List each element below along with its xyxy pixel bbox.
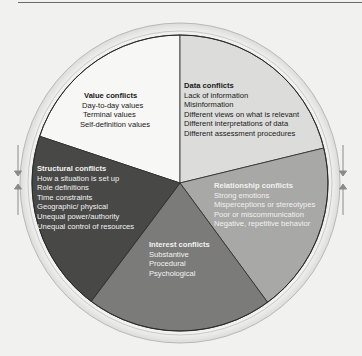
relationship-conflicts-label: Relationship conflicts Strong emotions M… <box>214 181 315 229</box>
data-item: Different interpretations of data <box>184 119 299 129</box>
data-item: Different views on what is relevant <box>184 110 299 120</box>
value-item: Self-definition values <box>80 120 150 130</box>
relationship-conflicts-title: Relationship conflicts <box>214 181 315 191</box>
data-item: Different assessment procedures <box>184 129 299 139</box>
relationship-item: Poor or miscommunication <box>214 210 315 220</box>
structural-conflicts-title: Structural conflicts <box>37 164 134 174</box>
interest-conflicts-label: Interest conflicts Substantive Procedura… <box>149 240 210 278</box>
data-conflicts-title: Data conflicts <box>184 81 299 91</box>
structural-item: Unequal power/authority <box>37 212 134 222</box>
interest-item: Substantive <box>149 250 210 260</box>
value-item: Day-to-day values <box>82 101 150 111</box>
value-conflicts-label: Value conflicts Day-to-day values Termin… <box>82 91 150 129</box>
relationship-item: Strong emotions <box>214 191 315 201</box>
relationship-item: Negative, repetitive behavior <box>214 219 315 229</box>
right-arrow-up-icon <box>340 184 347 215</box>
value-conflicts-title: Value conflicts <box>82 91 150 101</box>
interest-item: Procedural <box>149 259 210 269</box>
interest-conflicts-title: Interest conflicts <box>149 240 210 250</box>
structural-item: Role definitions <box>37 183 134 193</box>
relationship-item: Misperceptions or stereotypes <box>214 200 315 210</box>
structural-item: Geographic/ physical <box>37 202 134 212</box>
left-arrow-down-icon <box>15 145 22 176</box>
data-conflicts-label: Data conflicts Lack of information Misin… <box>184 81 299 139</box>
structural-item: How a situation is set up <box>37 174 134 184</box>
value-item: Terminal values <box>82 110 150 120</box>
data-item: Misinformation <box>184 100 299 110</box>
structural-conflicts-label: Structural conflicts How a situation is … <box>37 164 134 231</box>
structural-item: Unequal control of resources <box>37 222 134 232</box>
data-item: Lack of information <box>184 91 299 101</box>
structural-item: Time constraints <box>37 193 134 203</box>
right-arrow-down-icon <box>340 145 347 176</box>
interest-item: Psychological <box>149 269 210 279</box>
